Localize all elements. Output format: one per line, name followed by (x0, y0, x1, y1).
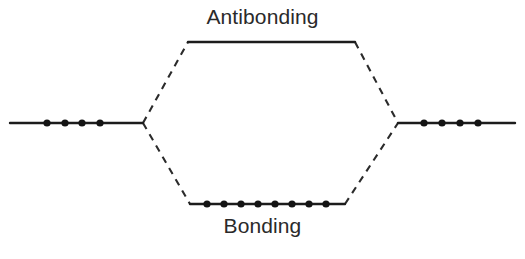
electron-dot (305, 200, 312, 207)
electron-dot (237, 200, 244, 207)
electron-dot (438, 119, 445, 126)
electron-dot (78, 119, 85, 126)
electron-dot (271, 200, 278, 207)
electron-dots-group (43, 119, 481, 207)
left-to-antibonding (143, 42, 188, 123)
electron-dot (474, 119, 481, 126)
electron-dot (96, 119, 103, 126)
left-to-bonding (143, 123, 190, 204)
antibonding-to-right (355, 42, 398, 123)
connector-lines-group (143, 42, 398, 204)
antibonding-label: Antibonding (0, 6, 525, 27)
electron-dot (288, 200, 295, 207)
electron-dot (420, 119, 427, 126)
electron-dot (322, 200, 329, 207)
electron-dot (456, 119, 463, 126)
bonding-to-right (345, 123, 398, 204)
electron-dot (61, 119, 68, 126)
electron-dot (43, 119, 50, 126)
electron-dot (203, 200, 210, 207)
bonding-label: Bonding (0, 215, 525, 236)
electron-dot (254, 200, 261, 207)
mo-diagram-canvas: Antibonding Bonding (0, 0, 525, 259)
electron-dot (220, 200, 227, 207)
